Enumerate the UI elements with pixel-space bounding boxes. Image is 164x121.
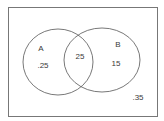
set-a-label: A: [38, 45, 43, 53]
set-b-label: B: [115, 41, 120, 49]
set-a-circle: [23, 29, 93, 95]
set-a-only-value: .25: [37, 62, 48, 70]
set-b-only-value: 15: [112, 60, 121, 68]
outside-value: .35: [132, 94, 143, 102]
intersection-value: 25: [76, 53, 85, 61]
